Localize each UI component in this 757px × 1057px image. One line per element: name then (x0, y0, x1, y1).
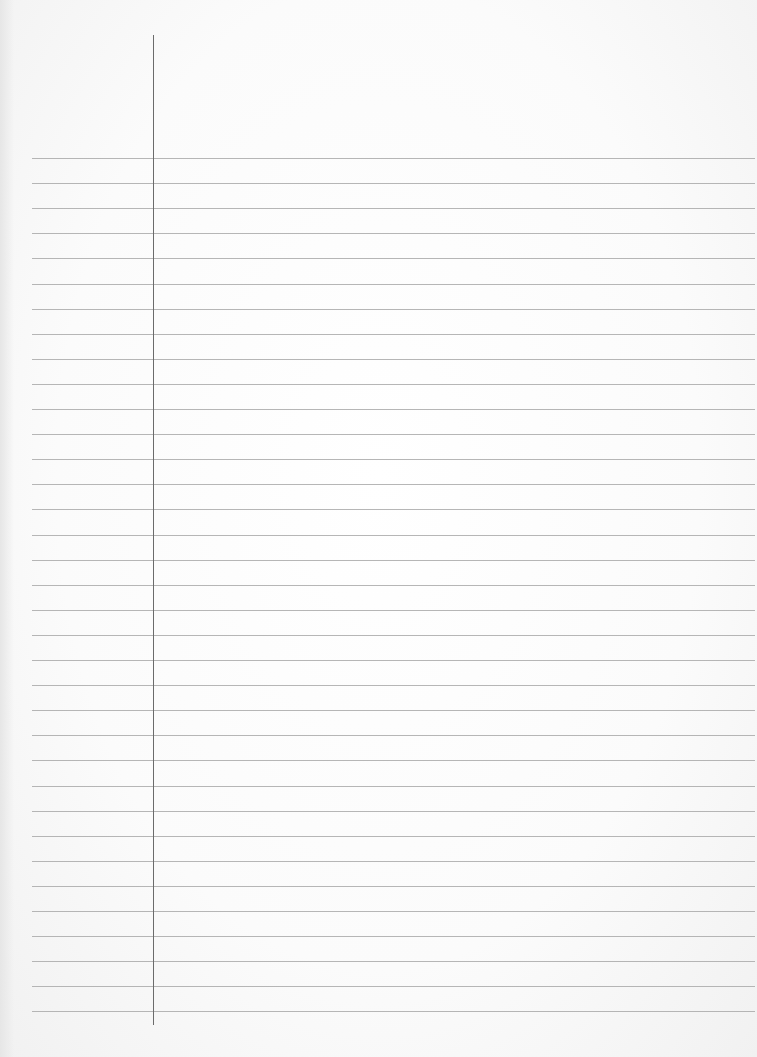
ruled-line (32, 585, 755, 586)
ruled-line (32, 509, 755, 510)
ruled-line (32, 484, 755, 485)
ruled-line (32, 936, 755, 937)
ruled-line (32, 208, 755, 209)
ruled-line (32, 786, 755, 787)
ruled-line (32, 1011, 755, 1012)
ruled-line (32, 685, 755, 686)
ruled-line (32, 359, 755, 360)
ruled-line (32, 911, 755, 912)
ruled-line (32, 434, 755, 435)
ruled-line (32, 610, 755, 611)
ruled-line (32, 861, 755, 862)
ruled-line (32, 409, 755, 410)
ruled-line (32, 334, 755, 335)
ruled-line (32, 886, 755, 887)
ruled-line (32, 986, 755, 987)
ruled-line (32, 258, 755, 259)
paper-edge-shadow (0, 0, 14, 1057)
ruled-line (32, 309, 755, 310)
lined-paper-sheet (0, 0, 757, 1057)
margin-line (153, 35, 154, 1025)
ruled-line (32, 635, 755, 636)
ruled-line (32, 710, 755, 711)
ruled-line (32, 560, 755, 561)
ruled-line (32, 535, 755, 536)
ruled-line (32, 836, 755, 837)
ruled-line (32, 811, 755, 812)
ruled-line (32, 760, 755, 761)
ruled-line (32, 961, 755, 962)
ruled-line (32, 284, 755, 285)
ruled-line (32, 459, 755, 460)
ruled-line (32, 660, 755, 661)
ruled-line (32, 735, 755, 736)
ruled-line (32, 158, 755, 159)
ruled-line (32, 384, 755, 385)
ruled-line (32, 183, 755, 184)
ruled-line (32, 233, 755, 234)
